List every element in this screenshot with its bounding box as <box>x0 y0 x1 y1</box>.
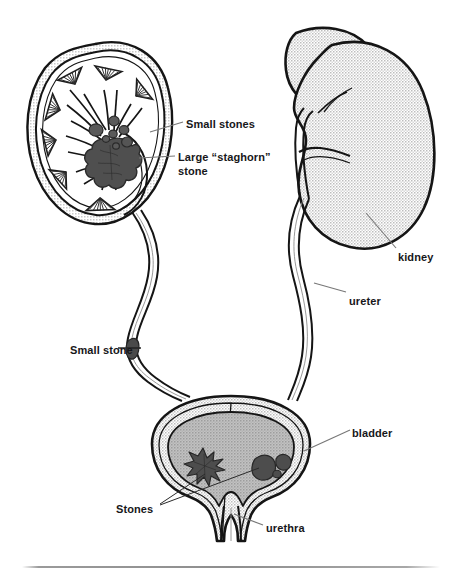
small-stone-5 <box>102 136 109 143</box>
small-stone-3 <box>109 130 117 138</box>
right-kidney-body <box>294 42 434 249</box>
urinary-tract-illustration <box>0 0 462 572</box>
bladder-round-stone-large <box>252 455 276 480</box>
label-small-stone: Small stone <box>70 344 133 358</box>
label-ureter: ureter <box>349 295 381 309</box>
leader-ureter <box>314 283 346 292</box>
small-stone-7 <box>113 143 120 149</box>
label-stones: Stones <box>116 503 153 517</box>
label-bladder: bladder <box>352 427 392 441</box>
figure-canvas: Small stones Large “staghorn” stone kidn… <box>0 0 462 572</box>
small-stone-2 <box>109 116 119 126</box>
small-stone-4 <box>119 126 129 135</box>
small-stone-1 <box>89 124 103 136</box>
small-stone-6 <box>122 137 133 147</box>
label-kidney: kidney <box>398 251 433 265</box>
bladder-round-stone-small <box>273 470 281 478</box>
left-kidney-section-group <box>27 42 172 224</box>
label-small-stones: Small stones <box>186 118 255 132</box>
label-urethra: urethra <box>266 522 305 536</box>
bladder-round-stone-medium <box>276 454 291 470</box>
footer-divider-rule <box>22 566 440 568</box>
left-ureter-group <box>126 210 190 401</box>
right-kidney-group <box>285 28 434 249</box>
label-large-staghorn-stone: Large “staghorn” stone <box>178 151 271 178</box>
